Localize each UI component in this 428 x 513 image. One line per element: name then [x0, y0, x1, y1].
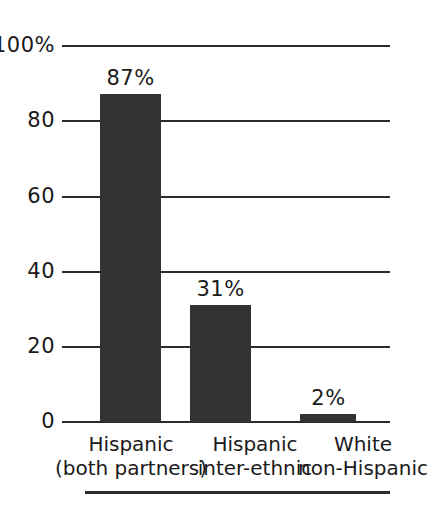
ytick-label-0: 0 [41, 411, 55, 432]
gridline-100 [62, 45, 390, 47]
category-label-line2: non-Hispanic [298, 456, 428, 480]
ytick-label-20: 20 [27, 336, 55, 357]
bar-hispanic-inter-ethnic [190, 305, 251, 422]
category-label-line1: Hispanic [55, 432, 207, 456]
category-label-hispanic-both-partners: Hispanic (both partners) [55, 432, 207, 480]
ytick-label-80: 80 [27, 110, 55, 131]
footer-rule [85, 491, 390, 494]
ytick-label-40: 40 [27, 261, 55, 282]
ytick-label-60: 60 [27, 186, 55, 207]
category-label-hispanic-inter-ethnic: Hispanic inter-ethnic [196, 432, 314, 480]
category-label-line2: (both partners) [55, 456, 207, 480]
category-label-line1: Hispanic [196, 432, 314, 456]
bar-white-non-hispanic [300, 414, 356, 422]
category-label-line2: inter-ethnic [196, 456, 314, 480]
bar-value-hispanic-both-partners: 87% [100, 68, 161, 89]
category-label-line1: White [298, 432, 428, 456]
bar-hispanic-both-partners [100, 94, 161, 422]
category-label-white-non-hispanic: White non-Hispanic [298, 432, 428, 480]
bar-value-white-non-hispanic: 2% [298, 388, 359, 409]
bar-value-hispanic-inter-ethnic: 31% [190, 279, 251, 300]
ytick-label-100: 100% [0, 35, 55, 56]
